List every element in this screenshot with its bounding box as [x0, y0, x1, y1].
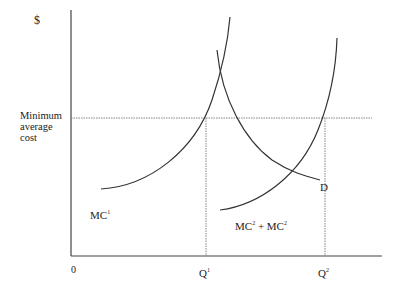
- y-axis-label: $: [34, 14, 40, 26]
- q2-tick-label: Q2: [318, 264, 329, 279]
- demand-curve-label: D: [320, 181, 328, 193]
- mc1-curve-label: MC1: [90, 206, 110, 221]
- demand-curve: [217, 50, 320, 180]
- mc2-sum-curve-label: MC2 + MC2: [235, 217, 287, 232]
- origin-label: 0: [71, 264, 76, 276]
- cost-curve-diagram: [0, 0, 398, 291]
- q1-tick-label: Q1: [199, 264, 210, 279]
- min-average-cost-label: Minimum average cost: [20, 110, 70, 143]
- mc1-curve: [101, 17, 230, 189]
